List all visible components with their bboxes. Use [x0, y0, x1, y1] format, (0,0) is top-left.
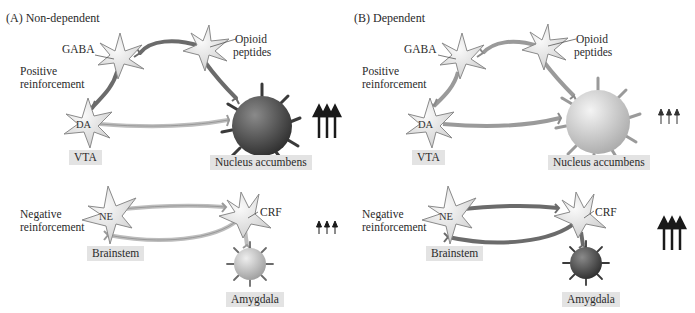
- negative-reinforcement-line2: reinforcement: [20, 221, 85, 234]
- opioid-neuron: [183, 25, 229, 71]
- nucleus-accumbens-region-label: Nucleus accumbens: [210, 155, 312, 170]
- ne-label: NE: [439, 210, 453, 223]
- negative-reinforcement-line1: Negative: [362, 208, 404, 221]
- arrows-positive-small: [659, 109, 680, 124]
- positive-reinforcement-line1: Positive: [362, 65, 399, 78]
- panel-b-dependent: (B) Dependent GABA Opioid peptides Posit…: [348, 0, 695, 313]
- arrows-negative-small: [317, 221, 338, 234]
- brainstem-region-label: Brainstem: [426, 246, 483, 261]
- vta-region-label: VTA: [69, 150, 102, 165]
- negative-reinforcement-line1: Negative: [20, 208, 62, 221]
- nucleus-accumbens-region-label: Nucleus accumbens: [548, 155, 650, 170]
- brainstem-region-label: Brainstem: [87, 246, 144, 261]
- gaba-label: GABA: [62, 43, 95, 56]
- panel-a-title: (A) Non-dependent: [6, 12, 100, 25]
- opioid-label-line1: Opioid: [576, 33, 608, 46]
- positive-reinforcement-line2: reinforcement: [20, 78, 85, 91]
- arrows-negative-large: [659, 218, 685, 250]
- amygdala-neuron: [563, 241, 609, 285]
- opioid-label-line2: peptides: [233, 46, 271, 59]
- arrows-positive-large: [314, 106, 340, 138]
- amygdala-region-label: Amygdala: [562, 292, 620, 307]
- crf-label: CRF: [595, 206, 617, 219]
- amygdala-neuron: [227, 242, 273, 286]
- vta-region-label: VTA: [412, 150, 445, 165]
- opioid-label-line1: Opioid: [235, 33, 267, 46]
- positive-reinforcement-line1: Positive: [20, 65, 57, 78]
- gaba-label: GABA: [404, 43, 437, 56]
- opioid-neuron: [522, 24, 568, 70]
- crf-label: CRF: [260, 206, 282, 219]
- panel-b-title: (B) Dependent: [354, 12, 425, 25]
- opioid-label-line2: peptides: [574, 46, 612, 59]
- da-label: DA: [76, 118, 91, 131]
- da-label: DA: [418, 118, 433, 131]
- panel-a-non-dependent: (A) Non-dependent GABA Opioid peptides P…: [0, 0, 347, 313]
- amygdala-region-label: Amygdala: [226, 292, 284, 307]
- ne-label: NE: [99, 210, 113, 223]
- positive-reinforcement-line2: reinforcement: [362, 78, 427, 91]
- negative-reinforcement-line2: reinforcement: [362, 221, 427, 234]
